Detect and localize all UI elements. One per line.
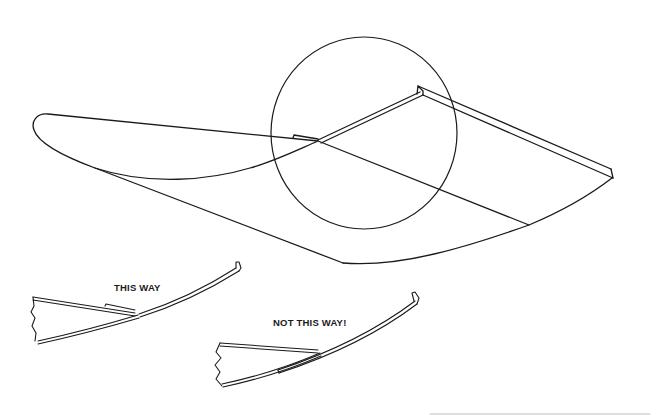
detail-circle	[271, 37, 457, 229]
wing-diagram	[0, 0, 657, 416]
airfoil-section	[33, 114, 318, 179]
detail-not-this-way	[215, 292, 419, 387]
trailing-edge-strip	[293, 86, 613, 178]
not-this-way-label: NOT THIS WAY!	[273, 317, 347, 328]
this-way-label: THIS WAY	[114, 282, 161, 293]
detail-this-way	[31, 262, 241, 344]
wing-panel	[95, 141, 612, 264]
